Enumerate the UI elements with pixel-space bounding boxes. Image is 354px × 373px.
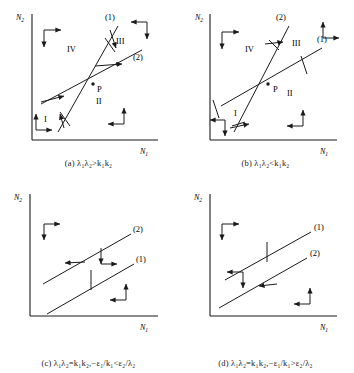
line-label-2: (2)	[310, 248, 320, 258]
arrow-pair-bottom-right	[110, 284, 126, 300]
line-label-1: (1)	[314, 222, 324, 232]
intersection-label: P	[97, 84, 102, 94]
flow-arrow-line2-lower	[41, 96, 64, 102]
line-label-2: (2)	[276, 12, 286, 22]
line-label-2: (2)	[133, 52, 143, 62]
panel-b-caption: (b) λ₁λ₂<k₁k₂	[177, 158, 354, 168]
y-axis-label: N2	[13, 193, 22, 203]
arrow-pair-top-left	[222, 224, 239, 240]
y-axis-label: N2	[193, 193, 202, 203]
isocline-2	[219, 258, 307, 308]
arrow-pair-region-IV	[44, 30, 61, 47]
intersection-point	[266, 82, 269, 85]
isocline-1	[225, 232, 311, 280]
region-label-IV: IV	[245, 44, 255, 54]
figure-panel-grid: N2 N1 (1) (2) P IV III I II (a) λ₁λ₂>k₁k…	[0, 0, 354, 373]
intersection-label: P	[273, 84, 278, 94]
flow-arrow-line2-upper	[95, 64, 122, 66]
arrow-pair-region-II	[108, 108, 124, 124]
hatch-left	[213, 100, 219, 118]
arrow-pair-top-left	[44, 224, 60, 240]
isocline-2	[41, 50, 142, 104]
panel-b: N2 N1 (2) (1) P IV III I II (b) λ₁λ₂<k₁k…	[177, 0, 354, 180]
line-label-1: (1)	[136, 254, 146, 264]
panel-a-caption: (a) λ₁λ₂>k₁k₂	[0, 158, 177, 168]
isocline-2	[43, 234, 131, 284]
x-axis-label: N1	[319, 147, 328, 157]
region-label-II: II	[287, 88, 293, 98]
region-label-II: II	[96, 96, 102, 106]
y-axis-label: N2	[15, 13, 24, 23]
flow-arrow-upper-line	[65, 262, 85, 263]
panel-a: N2 N1 (1) (2) P IV III I II (a) λ₁λ₂>k₁k…	[0, 0, 177, 180]
y-axis-label: N2	[194, 13, 203, 23]
intersection-point	[91, 82, 94, 85]
panel-c: N2 N1 (2) (1) (c) λ₁λ₂=k₁k₂,−ε₁/k₁<ε₂/λ₂	[0, 180, 177, 373]
isocline-1	[221, 48, 322, 106]
arrow-pair-middle	[101, 248, 117, 264]
x-axis-label: N1	[139, 147, 148, 157]
panel-c-caption: (c) λ₁λ₂=k₁k₂,−ε₁/k₁<ε₂/λ₂	[0, 358, 177, 368]
arrow-pair-region-III	[131, 22, 147, 39]
panel-d-caption: (d) λ₁λ₂=k₁k₂,−ε₁/k₁>ε₂/λ₂	[177, 358, 354, 368]
region-label-III: III	[116, 36, 125, 46]
hatch-upper	[269, 40, 279, 50]
line-label-1: (1)	[317, 34, 327, 44]
region-label-IV: IV	[67, 44, 77, 54]
arrow-pair-region-IV	[222, 32, 239, 49]
line-label-1: (1)	[105, 12, 115, 22]
region-label-I: I	[234, 108, 237, 118]
arrow-pair-bottom-right	[294, 288, 310, 304]
arrow-pair-region-II	[287, 110, 303, 126]
line-label-2: (2)	[133, 224, 143, 234]
x-axis-label: N1	[139, 323, 148, 333]
panel-d: N2 N1 (1) (2) (d) λ₁λ₂=k₁k₂,−ε₁/k₁>ε₂/λ₂	[177, 180, 354, 373]
region-label-I: I	[44, 114, 47, 124]
x-axis-label: N1	[319, 323, 328, 333]
region-label-III: III	[292, 38, 301, 48]
arrow-pair-region-I	[210, 120, 225, 136]
